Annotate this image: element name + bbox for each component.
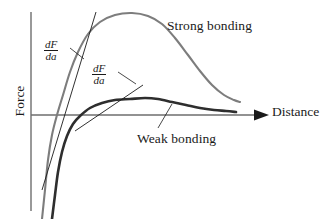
dfda-weak-leader-line [118,72,136,84]
dfda-strong-label: dF da [44,39,58,62]
weak-bonding-curve [52,98,236,219]
force-vs-distance-chart: Strong bonding Weak bonding Distance For… [0,0,333,219]
y-axis-title: Force [12,74,28,128]
dfda-strong-leader-line [70,48,84,59]
dfda-strong-denominator: da [44,51,58,62]
weak-bonding-label: Weak bonding [137,131,216,147]
weak-bonding-leader-line [158,104,172,128]
x-axis-arrow-icon [254,110,269,121]
x-axis-title: Distance [272,104,319,120]
strong-bonding-curve [42,13,240,219]
strong-bonding-label: Strong bonding [167,18,252,34]
dfda-weak-label: dF da [92,63,106,86]
weak-bonding-tangent-line [75,85,143,131]
dfda-weak-denominator: da [92,75,106,86]
